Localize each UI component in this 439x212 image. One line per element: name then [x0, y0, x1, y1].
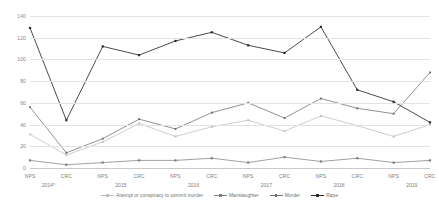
y-tick-label: 80 — [0, 78, 26, 84]
data-point — [65, 154, 67, 156]
series-murder — [29, 72, 431, 154]
data-point — [138, 54, 140, 56]
series-line — [30, 116, 430, 155]
gridline-120 — [30, 38, 430, 39]
data-point — [320, 98, 322, 100]
data-point — [356, 107, 358, 109]
data-point — [393, 161, 395, 163]
gridline-100 — [30, 59, 430, 60]
data-point — [102, 45, 104, 47]
y-tick-label: 20 — [0, 143, 26, 149]
x-tick-label: CRC — [206, 173, 217, 179]
data-point — [320, 26, 322, 28]
data-point — [284, 117, 286, 119]
gridline-0 — [30, 168, 430, 169]
data-point — [393, 113, 395, 115]
data-point — [174, 159, 176, 161]
x-axis-year-label: 2018 — [334, 182, 345, 188]
data-point — [429, 121, 431, 123]
legend-label: Attempt or conspiracy to commit murder — [116, 193, 203, 198]
series-layer — [30, 16, 430, 168]
gridline-20 — [30, 146, 430, 147]
gridline-80 — [30, 81, 430, 82]
legend-label: Manslaughter — [229, 193, 259, 198]
y-tick-label: 140 — [0, 13, 26, 19]
data-point — [29, 27, 31, 29]
x-tick-label: NPS — [388, 173, 399, 179]
x-tick-label: NPS — [170, 173, 181, 179]
x-tick-label: CRC — [424, 173, 435, 179]
data-point — [211, 112, 213, 114]
data-point — [320, 115, 322, 117]
data-point — [247, 119, 249, 121]
data-point — [393, 136, 395, 138]
data-point — [429, 72, 431, 74]
series-line — [30, 72, 430, 152]
data-point — [247, 44, 249, 46]
data-point — [102, 161, 104, 163]
data-point — [211, 31, 213, 33]
data-point — [102, 141, 104, 143]
data-point — [284, 130, 286, 132]
data-point — [138, 118, 140, 120]
data-point — [320, 160, 322, 162]
data-point — [65, 119, 67, 121]
series-attempt-or-conspiracy-to-commit-murder — [29, 115, 431, 156]
legend-item[interactable]: Manslaughter — [214, 193, 259, 198]
x-tick-label: NPS — [316, 173, 327, 179]
data-point — [211, 126, 213, 128]
line-chart: 020406080100120140 NPSCRCNPSCRCNPSCRCNPS… — [0, 0, 439, 212]
x-tick-label: NPS — [25, 173, 36, 179]
data-point — [29, 133, 31, 135]
data-point — [247, 161, 249, 163]
data-point — [175, 128, 177, 130]
y-tick-label: 40 — [0, 122, 26, 128]
plot-area — [30, 16, 430, 168]
series-line — [30, 157, 430, 165]
data-point — [356, 157, 358, 159]
x-axis-year-label: 2017 — [261, 182, 272, 188]
legend-label: Rape — [326, 193, 338, 198]
data-point — [429, 159, 431, 161]
y-tick-label: 100 — [0, 56, 26, 62]
data-point — [65, 152, 67, 154]
series-manslaughter — [29, 156, 431, 166]
x-tick-label: CRC — [279, 173, 290, 179]
legend-swatch-icon — [214, 193, 227, 198]
data-point — [174, 40, 176, 42]
x-axis-year-label: 2014* — [42, 182, 55, 188]
legend-swatch-icon — [101, 193, 114, 198]
data-point — [29, 159, 31, 161]
legend-item[interactable]: Murder — [270, 193, 301, 198]
x-axis-year-label: 2019 — [406, 182, 417, 188]
data-point — [283, 156, 285, 158]
legend-item[interactable]: Attempt or conspiracy to commit murder — [101, 193, 203, 198]
data-point — [138, 159, 140, 161]
x-tick-label: NPS — [97, 173, 108, 179]
x-tick-label: CRC — [133, 173, 144, 179]
y-tick-label: 120 — [0, 35, 26, 41]
x-axis-year-label: 2016 — [188, 182, 199, 188]
y-tick-label: 0 — [0, 165, 26, 171]
legend-swatch-icon — [270, 193, 283, 198]
data-point — [283, 52, 285, 54]
y-tick-label: 60 — [0, 100, 26, 106]
legend-swatch-icon — [311, 193, 324, 198]
gridline-60 — [30, 103, 430, 104]
gridline-140 — [30, 16, 430, 17]
x-tick-label: CRC — [61, 173, 72, 179]
data-point — [175, 136, 177, 138]
data-point — [65, 164, 67, 166]
x-tick-label: NPS — [243, 173, 254, 179]
legend-label: Murder — [285, 193, 301, 198]
data-point — [29, 106, 31, 108]
x-tick-label: CRC — [352, 173, 363, 179]
x-axis-year-label: 2015 — [115, 182, 126, 188]
data-point — [211, 157, 213, 159]
chart-legend: Attempt or conspiracy to commit murderMa… — [0, 193, 439, 198]
data-point — [356, 89, 358, 91]
gridline-40 — [30, 125, 430, 126]
data-point — [102, 138, 104, 140]
legend-item[interactable]: Rape — [311, 193, 338, 198]
series-rape — [29, 26, 431, 124]
